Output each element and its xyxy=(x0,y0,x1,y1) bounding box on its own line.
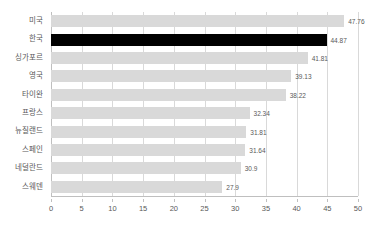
x-tick-label-45: 45 xyxy=(323,204,331,213)
x-tick-35 xyxy=(266,199,267,202)
category-label-프랑스: 프랑스 xyxy=(22,104,43,122)
x-tick-40 xyxy=(297,199,298,202)
x-tick-10 xyxy=(112,199,113,202)
x-tick-0 xyxy=(51,199,52,202)
category-label-뉴질랜드: 뉴질랜드 xyxy=(15,122,43,140)
bar-value-label: 41.81 xyxy=(312,54,328,61)
bar-value-label: 39.13 xyxy=(295,73,311,80)
bar-싱가포르 xyxy=(51,52,308,64)
bar-row: 32.34 xyxy=(51,104,358,122)
x-tick-15 xyxy=(143,199,144,202)
bar-series: 47.7644.8741.8139.1338.2232.3431.8131.64… xyxy=(51,12,358,196)
plot-area: 47.7644.8741.8139.1338.2232.3431.8131.64… xyxy=(51,12,358,196)
category-label-미국: 미국 xyxy=(29,12,43,30)
category-label-한국: 한국 xyxy=(29,30,43,48)
category-label-스웨덴: 스웨덴 xyxy=(22,178,43,196)
bar-value-label: 47.76 xyxy=(348,18,364,25)
bar-chart: 미국한국싱가포르영국타이완프랑스뉴질랜드스페인네덜란드스웨덴 47.7644.8… xyxy=(0,0,377,240)
category-label-타이완: 타이완 xyxy=(22,86,43,104)
category-axis-labels: 미국한국싱가포르영국타이완프랑스뉴질랜드스페인네덜란드스웨덴 xyxy=(0,12,47,196)
x-tick-label-40: 40 xyxy=(292,204,300,213)
x-tick-label-30: 30 xyxy=(231,204,239,213)
x-tick-20 xyxy=(174,199,175,202)
bar-value-label: 38.22 xyxy=(290,91,306,98)
bar-스페인 xyxy=(51,144,245,156)
bar-row: 38.22 xyxy=(51,86,358,104)
x-tick-label-15: 15 xyxy=(139,204,147,213)
x-tick-label-5: 5 xyxy=(80,204,84,213)
x-axis-line xyxy=(51,196,358,197)
bar-row: 27.9 xyxy=(51,178,358,196)
x-tick-5 xyxy=(82,199,83,202)
x-tick-label-0: 0 xyxy=(49,204,53,213)
bar-row: 31.81 xyxy=(51,122,358,140)
bar-미국 xyxy=(51,15,344,27)
x-tick-50 xyxy=(358,199,359,202)
x-tick-label-20: 20 xyxy=(170,204,178,213)
bar-row: 39.13 xyxy=(51,67,358,85)
value-axis-labels: 05101520253035404550 xyxy=(51,199,358,213)
x-tick-label-10: 10 xyxy=(108,204,116,213)
category-label-네덜란드: 네덜란드 xyxy=(15,159,43,177)
bar-row: 30.9 xyxy=(51,159,358,177)
bar-한국 xyxy=(51,34,327,46)
bar-row: 41.81 xyxy=(51,49,358,67)
bar-value-label: 32.34 xyxy=(254,110,270,117)
bar-value-label: 30.9 xyxy=(245,165,258,172)
x-tick-label-25: 25 xyxy=(200,204,208,213)
bar-row: 44.87 xyxy=(51,30,358,48)
bar-뉴질랜드 xyxy=(51,126,246,138)
gridline-50 xyxy=(358,12,359,196)
category-label-스페인: 스페인 xyxy=(22,141,43,159)
x-tick-label-50: 50 xyxy=(354,204,362,213)
bar-value-label: 44.87 xyxy=(331,36,347,43)
x-tick-label-35: 35 xyxy=(262,204,270,213)
bar-row: 47.76 xyxy=(51,12,358,30)
bar-영국 xyxy=(51,70,291,82)
x-tick-30 xyxy=(235,199,236,202)
bar-value-label: 27.9 xyxy=(226,183,239,190)
bar-네덜란드 xyxy=(51,162,241,174)
bar-타이완 xyxy=(51,89,286,101)
category-label-싱가포르: 싱가포르 xyxy=(15,49,43,67)
x-tick-25 xyxy=(205,199,206,202)
bar-value-label: 31.81 xyxy=(250,128,266,135)
bar-value-label: 31.64 xyxy=(249,146,265,153)
bar-row: 31.64 xyxy=(51,141,358,159)
category-label-영국: 영국 xyxy=(29,67,43,85)
x-tick-45 xyxy=(327,199,328,202)
bar-프랑스 xyxy=(51,107,250,119)
bar-스웨덴 xyxy=(51,181,222,193)
